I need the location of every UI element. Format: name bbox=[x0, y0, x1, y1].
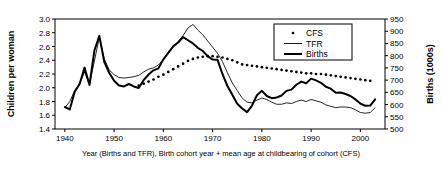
y-tick-label-right: 750 bbox=[390, 64, 404, 73]
data-point bbox=[300, 71, 303, 74]
data-point bbox=[162, 73, 165, 76]
legend-swatch-dotted bbox=[292, 32, 295, 35]
data-point bbox=[246, 64, 249, 67]
y-axis-title-left: Children per woman bbox=[6, 31, 16, 118]
x-tick-label: 1990 bbox=[302, 134, 320, 143]
data-point bbox=[305, 72, 308, 75]
data-point bbox=[221, 56, 224, 59]
y-tick-label-left: 2.6 bbox=[39, 43, 51, 52]
legend-label: CFS bbox=[306, 28, 323, 38]
x-tick-label: 1960 bbox=[154, 134, 172, 143]
y-tick-label-right: 900 bbox=[390, 27, 404, 36]
data-point bbox=[152, 78, 155, 81]
data-point bbox=[369, 80, 372, 83]
legend-label: TFR bbox=[306, 39, 323, 49]
data-point bbox=[157, 75, 160, 78]
y-tick-label-right: 500 bbox=[390, 125, 404, 134]
y-tick-label-right: 800 bbox=[390, 52, 404, 61]
data-point bbox=[167, 71, 170, 74]
left-axis-ticks: 1.41.61.82.02.22.42.62.83.0 bbox=[39, 15, 55, 134]
data-point bbox=[251, 64, 254, 67]
data-point bbox=[256, 65, 259, 68]
data-point bbox=[329, 74, 332, 77]
y-tick-label-left: 1.4 bbox=[39, 125, 51, 134]
right-axis-ticks: 500550600650700750800850900950 bbox=[385, 15, 404, 134]
fertility-births-chart: 1.41.61.82.02.22.42.62.83.0 500550600650… bbox=[0, 0, 442, 170]
data-point bbox=[192, 58, 195, 61]
data-point bbox=[359, 78, 362, 81]
y-tick-label-right: 650 bbox=[390, 88, 404, 97]
data-point bbox=[275, 68, 278, 71]
y-tick-label-right: 700 bbox=[390, 76, 404, 85]
chart-legend: CFSTFRBirths bbox=[274, 24, 352, 60]
data-point bbox=[310, 72, 313, 75]
data-point bbox=[344, 76, 347, 79]
data-point bbox=[339, 75, 342, 78]
y-tick-label-left: 3.0 bbox=[39, 15, 51, 24]
data-point bbox=[315, 73, 318, 76]
data-point bbox=[236, 61, 239, 64]
data-point bbox=[211, 55, 214, 58]
x-tick-label: 1940 bbox=[56, 134, 74, 143]
y-axis-title-right: Births (1000s) bbox=[425, 44, 435, 104]
y-tick-label-left: 1.6 bbox=[39, 111, 51, 120]
x-tick-label: 1950 bbox=[105, 134, 123, 143]
y-tick-label-right: 600 bbox=[390, 101, 404, 110]
data-point bbox=[265, 66, 268, 69]
data-point bbox=[295, 71, 298, 74]
data-point bbox=[147, 80, 150, 83]
data-point bbox=[364, 79, 367, 82]
data-point bbox=[280, 69, 283, 72]
data-point bbox=[231, 59, 234, 62]
x-tick-label: 2000 bbox=[351, 134, 369, 143]
y-tick-label-left: 1.8 bbox=[39, 98, 51, 107]
y-tick-label-left: 2.0 bbox=[39, 84, 51, 93]
data-point bbox=[216, 55, 219, 58]
data-point bbox=[290, 70, 293, 73]
data-point bbox=[334, 75, 337, 78]
chart-figure: 1.41.61.82.02.22.42.62.83.0 500550600650… bbox=[0, 0, 442, 170]
data-point bbox=[196, 56, 199, 59]
legend-label: Births bbox=[306, 49, 328, 59]
data-point bbox=[261, 66, 264, 69]
y-tick-label-right: 550 bbox=[390, 113, 404, 122]
y-tick-label-right: 850 bbox=[390, 39, 404, 48]
x-tick-label: 1970 bbox=[204, 134, 222, 143]
data-point bbox=[177, 65, 180, 68]
x-tick-label: 1980 bbox=[253, 134, 271, 143]
y-tick-label-right: 950 bbox=[390, 15, 404, 24]
data-point bbox=[354, 77, 357, 80]
data-point bbox=[320, 73, 323, 76]
data-point bbox=[182, 62, 185, 65]
data-point bbox=[226, 58, 229, 61]
data-point bbox=[325, 73, 328, 76]
data-point bbox=[270, 67, 273, 70]
data-point bbox=[172, 68, 175, 71]
y-tick-label-left: 2.4 bbox=[39, 56, 51, 65]
data-point bbox=[201, 55, 204, 58]
x-axis-ticks: 1940195019601970198019902000 bbox=[56, 129, 370, 143]
data-point bbox=[187, 60, 190, 63]
y-tick-label-left: 2.8 bbox=[39, 29, 51, 38]
data-point bbox=[241, 63, 244, 66]
y-tick-label-left: 2.2 bbox=[39, 70, 51, 79]
data-point bbox=[285, 69, 288, 72]
data-point bbox=[349, 77, 352, 80]
x-axis-caption: Year (Births and TFR), Birth cohort year… bbox=[82, 149, 360, 158]
